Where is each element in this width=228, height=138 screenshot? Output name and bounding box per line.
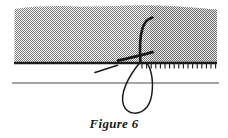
figure-6-illustration: Figure 6 xyxy=(0,0,228,138)
hatched-medium-region-right-shade xyxy=(150,6,217,62)
figure-caption: Figure 6 xyxy=(89,116,139,131)
figure-container: Figure 6 xyxy=(0,0,228,138)
